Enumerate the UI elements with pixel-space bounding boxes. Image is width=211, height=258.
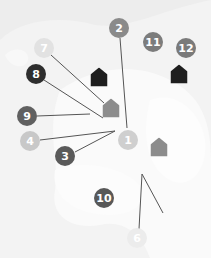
- marker-label: 9: [23, 110, 31, 123]
- house-icon[interactable]: [171, 65, 188, 88]
- house-icon[interactable]: [103, 99, 120, 122]
- marker-label: 12: [178, 42, 193, 55]
- marker-label: 8: [32, 68, 40, 81]
- map-marker-6[interactable]: 6: [127, 228, 147, 248]
- house-icon[interactable]: [91, 68, 108, 91]
- map-background: [0, 0, 211, 258]
- marker-label: 11: [145, 36, 160, 49]
- marker-label: 10: [96, 192, 111, 205]
- map-marker-4[interactable]: 4: [20, 131, 40, 151]
- marker-label: 7: [40, 42, 48, 55]
- map-view[interactable]: 12346789101112: [0, 0, 211, 258]
- marker-label: 1: [124, 134, 132, 147]
- map-marker-12[interactable]: 12: [176, 38, 196, 58]
- map-marker-10[interactable]: 10: [94, 188, 114, 208]
- map-marker-1[interactable]: 1: [118, 130, 138, 150]
- map-marker-3[interactable]: 3: [55, 146, 75, 166]
- map-marker-7[interactable]: 7: [34, 38, 54, 58]
- marker-label: 2: [115, 22, 123, 35]
- map-marker-8[interactable]: 8: [26, 64, 46, 84]
- marker-label: 3: [61, 150, 69, 163]
- map-marker-2[interactable]: 2: [109, 18, 129, 38]
- map-marker-11[interactable]: 11: [143, 32, 163, 52]
- house-icon[interactable]: [151, 138, 168, 161]
- marker-label: 4: [26, 135, 34, 148]
- map-marker-9[interactable]: 9: [17, 106, 37, 126]
- marker-label: 6: [133, 232, 141, 245]
